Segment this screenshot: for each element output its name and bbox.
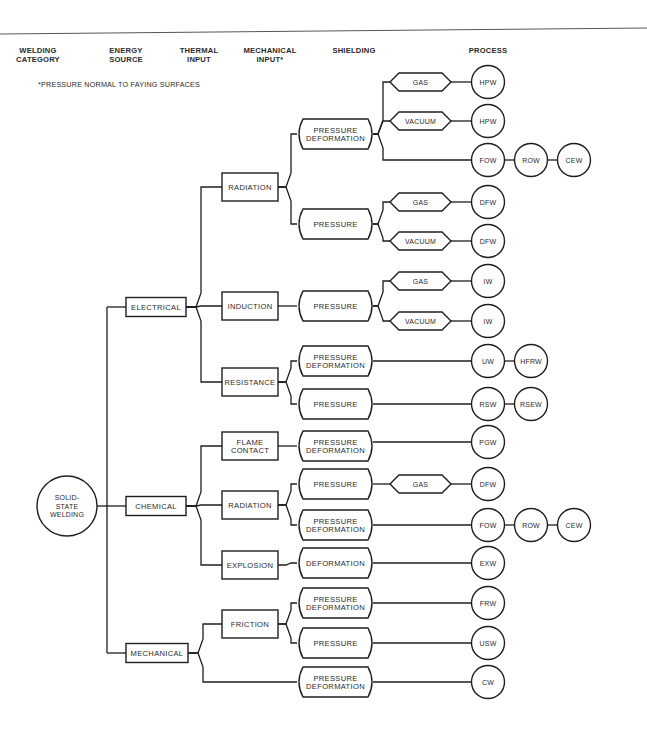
mechanical-input-label: PRESSURE — [313, 639, 357, 648]
shielding-label: GAS — [413, 199, 429, 206]
shielding-label: GAS — [413, 79, 429, 86]
connector — [373, 202, 390, 224]
process-label: IW — [484, 278, 493, 285]
footnote: *PRESSURE NORMAL TO FAYING SURFACES — [38, 80, 200, 89]
energy-source-label: CHEMICAL — [135, 502, 177, 511]
process-label: RSEW — [520, 401, 542, 408]
connector — [373, 224, 390, 241]
process-label: HPW — [480, 79, 497, 86]
process-label: IW — [484, 318, 493, 325]
mechanical-input-label: PRESSUREDEFORMATION — [306, 674, 365, 691]
mechanical-input-label: PRESSUREDEFORMATION — [306, 353, 365, 370]
process-label: DFW — [480, 199, 497, 206]
connector — [373, 306, 390, 321]
solid-state-welding-classification-diagram: WELDINGCATEGORYENERGYSOURCETHERMALINPUTM… — [0, 0, 647, 740]
connector — [278, 603, 297, 624]
process-label: RSW — [480, 401, 497, 408]
energy-source-label: ELECTRICAL — [131, 303, 181, 312]
connector — [186, 307, 222, 382]
thermal-input-label: EXPLOSION — [227, 561, 274, 570]
connector — [186, 506, 222, 565]
thermal-input-label: INDUCTION — [228, 302, 273, 311]
header-shielding: SHIELDING — [332, 46, 375, 55]
connector — [278, 134, 297, 187]
process-label: FRW — [480, 600, 497, 607]
connector — [278, 563, 297, 565]
process-label: PGW — [479, 439, 497, 446]
mechanical-input-label: PRESSUREDEFORMATION — [306, 438, 365, 455]
process-label: CEW — [566, 157, 583, 164]
process-label: FOW — [480, 522, 497, 529]
shielding-label: GAS — [413, 481, 429, 488]
header-welding-category: WELDINGCATEGORY — [16, 46, 60, 64]
header-energy-source: ENERGYSOURCE — [109, 46, 143, 64]
connector — [278, 382, 297, 404]
thermal-input-label: RADIATION — [228, 183, 271, 192]
process-label: HFRW — [520, 358, 542, 365]
mechanical-input-label: PRESSURE — [313, 480, 357, 489]
connector — [278, 624, 297, 643]
connector — [188, 624, 222, 653]
header-mechanical-input: MECHANICALINPUT* — [243, 46, 296, 64]
process-label: HPW — [480, 118, 497, 125]
process-label: EXW — [480, 560, 497, 567]
process-label: FOW — [480, 157, 497, 164]
process-label: CEW — [566, 522, 583, 529]
process-label: DFW — [480, 238, 497, 245]
process-label: ROW — [522, 522, 540, 529]
connector — [278, 505, 297, 525]
connector — [278, 187, 297, 224]
mechanical-input-label: PRESSURE — [313, 400, 357, 409]
energy-source-label: MECHANICAL — [131, 649, 184, 658]
connector — [278, 484, 297, 505]
shielding-label: VACUUM — [405, 318, 436, 325]
process-label: USW — [480, 640, 497, 647]
top-rule — [0, 28, 647, 34]
process-label: DFW — [480, 481, 497, 488]
connector — [278, 361, 297, 382]
mechanical-input-label: DEFORMATION — [306, 559, 365, 568]
process-label: CW — [482, 679, 494, 686]
shielding-label: VACUUM — [405, 238, 436, 245]
mechanical-input-label: PRESSUREDEFORMATION — [306, 517, 365, 534]
thermal-input-label: RESISTANCE — [225, 378, 276, 387]
header-thermal-input: THERMALINPUT — [180, 46, 219, 64]
mechanical-input-label: PRESSURE — [313, 302, 357, 311]
thermal-input-label: FRICTION — [231, 620, 269, 629]
mechanical-input-label: PRESSUREDEFORMATION — [306, 595, 365, 612]
mechanical-input-label: PRESSUREDEFORMATION — [306, 126, 365, 143]
connector — [186, 446, 222, 506]
connector — [186, 187, 222, 307]
process-label: UW — [482, 358, 494, 365]
thermal-input-label: RADIATION — [228, 501, 271, 510]
connector — [373, 281, 390, 306]
connector — [373, 134, 472, 160]
column-headers: WELDINGCATEGORYENERGYSOURCETHERMALINPUTM… — [16, 46, 507, 64]
shielding-label: GAS — [413, 278, 429, 285]
connector — [188, 653, 297, 682]
process-label: ROW — [522, 157, 540, 164]
header-process: PROCESS — [469, 46, 508, 55]
shielding-label: VACUUM — [405, 118, 436, 125]
mechanical-input-label: PRESSURE — [313, 220, 357, 229]
